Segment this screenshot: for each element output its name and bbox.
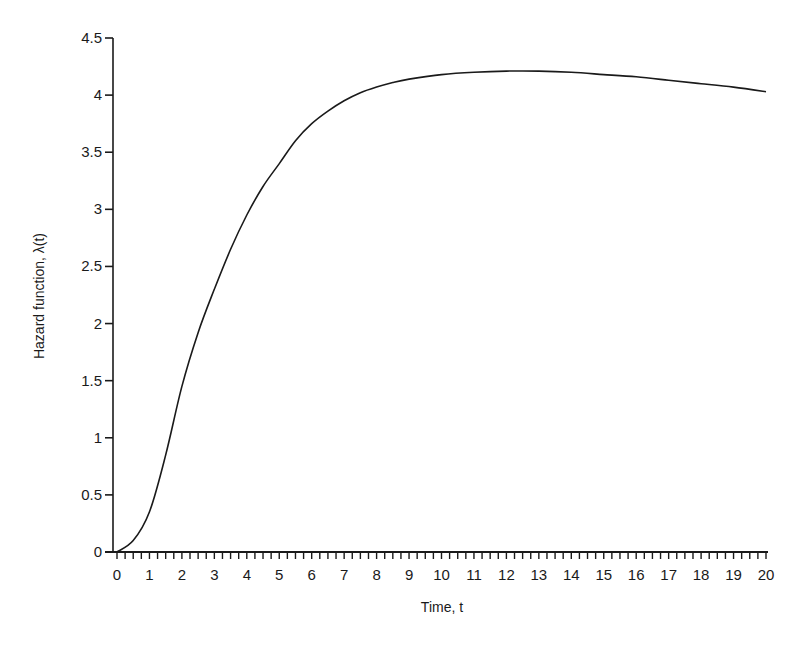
y-tick-label: 2 — [94, 315, 102, 332]
x-tick-label: 17 — [660, 566, 677, 583]
y-tick-label: 4 — [94, 86, 102, 103]
y-tick-label: 2.5 — [81, 257, 102, 274]
y-tick-label: 1.5 — [81, 372, 102, 389]
x-tick-label: 10 — [433, 566, 450, 583]
x-tick-label: 6 — [308, 566, 316, 583]
x-tick-label: 12 — [498, 566, 515, 583]
x-axis-title: Time, t — [421, 599, 463, 615]
y-tick-label: 1 — [94, 429, 102, 446]
x-tick-label: 7 — [340, 566, 348, 583]
x-tick-label: 19 — [725, 566, 742, 583]
x-tick-label: 3 — [210, 566, 218, 583]
x-tick-label: 2 — [178, 566, 186, 583]
x-tick-label: 14 — [563, 566, 580, 583]
hazard-curve — [117, 71, 766, 552]
y-tick-label: 0 — [94, 543, 102, 560]
x-tick-label: 8 — [372, 566, 380, 583]
y-tick-label: 4.5 — [81, 29, 102, 46]
x-tick-label: 16 — [628, 566, 645, 583]
x-tick-label: 5 — [275, 566, 283, 583]
y-axis: 00.511.522.533.544.5 — [81, 29, 113, 560]
y-tick-label: 0.5 — [81, 486, 102, 503]
x-tick-label: 1 — [145, 566, 153, 583]
x-tick-label: 11 — [466, 566, 482, 583]
x-axis: 01234567891011121314151617181920 — [105, 552, 774, 583]
x-tick-label: 9 — [405, 566, 413, 583]
x-tick-label: 20 — [758, 566, 775, 583]
hazard-function-chart: 00.511.522.533.544.5 0123456789101112131… — [0, 0, 808, 648]
x-tick-label: 15 — [595, 566, 612, 583]
y-tick-label: 3.5 — [81, 143, 102, 160]
x-tick-label: 4 — [243, 566, 251, 583]
x-tick-label: 0 — [113, 566, 121, 583]
x-tick-label: 18 — [693, 566, 710, 583]
y-tick-label: 3 — [94, 200, 102, 217]
x-tick-label: 13 — [531, 566, 548, 583]
y-axis-title: Hazard function, λ(t) — [31, 233, 47, 359]
